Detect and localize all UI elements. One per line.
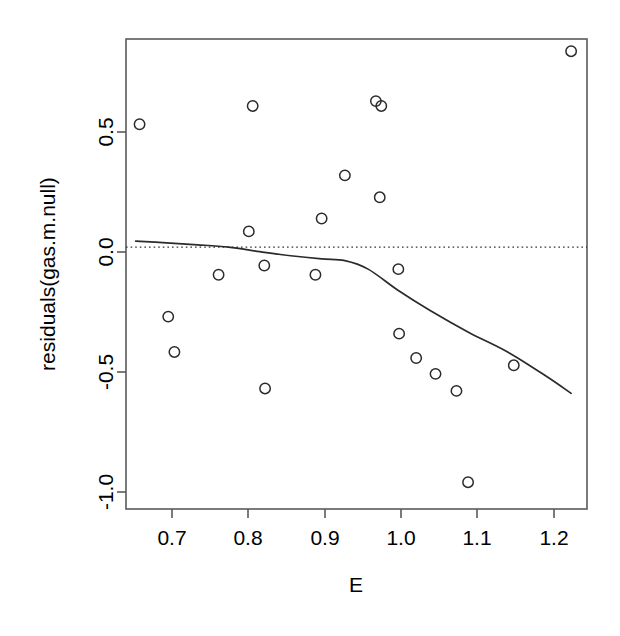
y-axis-tick-labels: 0.5 0.0 -0.5 -1.0 xyxy=(94,117,117,510)
y-tick-label-0: 0.5 xyxy=(94,117,117,146)
x-axis-label: E xyxy=(349,573,363,596)
residual-scatter-plot: 0.5 0.0 -0.5 -1.0 residuals(gas.m.null) … xyxy=(0,0,620,636)
x-axis-ticks xyxy=(172,509,554,518)
data-point xyxy=(411,353,421,363)
data-point xyxy=(340,170,350,180)
x-tick-label-0: 0.7 xyxy=(157,526,186,549)
data-point xyxy=(310,270,320,280)
x-tick-label-4: 1.1 xyxy=(462,526,491,549)
lowess-smooth-curve xyxy=(136,241,571,393)
data-point xyxy=(463,477,473,487)
data-point xyxy=(163,311,173,321)
x-tick-label-1: 0.8 xyxy=(233,526,262,549)
y-tick-label-3: -1.0 xyxy=(94,474,117,510)
x-axis-tick-labels: 0.7 0.8 0.9 1.0 1.1 1.2 xyxy=(157,526,568,549)
x-tick-label-2: 0.9 xyxy=(310,526,339,549)
y-tick-label-1: 0.0 xyxy=(94,237,117,266)
plot-frame xyxy=(126,39,587,509)
data-point xyxy=(169,347,179,357)
data-point xyxy=(430,369,440,379)
data-point xyxy=(260,383,270,393)
data-point xyxy=(316,213,326,223)
data-point xyxy=(393,264,403,274)
chart-container: 0.5 0.0 -0.5 -1.0 residuals(gas.m.null) … xyxy=(0,0,620,636)
data-point xyxy=(247,101,257,111)
x-tick-label-5: 1.2 xyxy=(539,526,568,549)
y-axis-label: residuals(gas.m.null) xyxy=(36,177,59,371)
data-point xyxy=(375,192,385,202)
data-point xyxy=(394,328,404,338)
data-point xyxy=(259,260,269,270)
scatter-points-layer xyxy=(134,46,576,487)
data-point xyxy=(566,46,576,56)
y-axis-ticks xyxy=(117,132,126,492)
data-point xyxy=(213,270,223,280)
x-tick-label-3: 1.0 xyxy=(386,526,415,549)
y-tick-label-2: -0.5 xyxy=(94,354,117,390)
data-point xyxy=(451,386,461,396)
data-point xyxy=(509,360,519,370)
data-point xyxy=(134,119,144,129)
data-point xyxy=(244,226,254,236)
